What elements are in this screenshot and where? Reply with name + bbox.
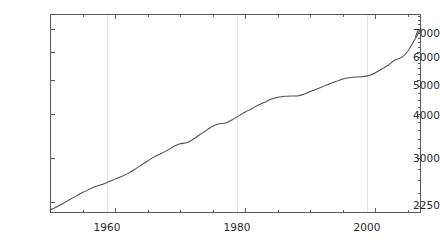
tick-y-right-minor-6400 [418, 42, 421, 43]
tick-y-major-7000 [50, 29, 55, 30]
tick-y-right-minor-4200 [418, 107, 421, 108]
tick-y-right-minor-5600 [418, 63, 421, 64]
xtick-label-1980: 1980 [217, 222, 257, 232]
tick-y-right-minor-7400 [418, 20, 421, 21]
tick-x-minor-1955 [83, 210, 84, 213]
tick-y-right-minor-2800 [418, 169, 421, 170]
ytick-label-4000: 4000 [398, 110, 440, 120]
tick-y-right-minor-5400 [418, 68, 421, 69]
ytick-label-2250: 2250 [398, 200, 440, 210]
tick-x-minor-top-2005 [408, 14, 409, 17]
tick-x-major-2000 [375, 208, 376, 213]
tick-y-right-minor-5200 [418, 74, 421, 75]
tick-y-right-minor-3600 [418, 130, 421, 131]
tick-y-major-3000 [50, 158, 55, 159]
tick-x-minor-1970 [180, 210, 181, 213]
tick-x-major-top-1960 [115, 14, 116, 19]
tick-y-right-minor-4600 [418, 93, 421, 94]
tick-x-minor-top-1955 [83, 14, 84, 17]
tick-x-minor-top-1975 [213, 14, 214, 17]
tick-y-major-6000 [50, 52, 55, 53]
tick-y-right-minor-7200 [418, 24, 421, 25]
tick-x-minor-top-1995 [343, 14, 344, 17]
tick-y-right-minor-6200 [418, 47, 421, 48]
ytick-label-6000: 6000 [398, 52, 440, 62]
tick-y-right-minor-3800 [418, 122, 421, 123]
tick-x-major-top-2000 [375, 14, 376, 19]
tick-y-right-minor-3200 [418, 148, 421, 149]
chart-figure: 7000 6000 5000 4000 3000 2250 1960 1980 … [0, 0, 440, 244]
tick-x-minor-1965 [148, 210, 149, 213]
tick-x-minor-top-1985 [278, 14, 279, 17]
tick-x-major-1960 [115, 208, 116, 213]
tick-x-minor-1975 [213, 210, 214, 213]
tick-x-minor-1985 [278, 210, 279, 213]
tick-x-minor-1995 [343, 210, 344, 213]
tick-y-right-minor-2600 [418, 180, 421, 181]
tick-y-major-4000 [50, 114, 55, 115]
tick-x-minor-top-1970 [180, 14, 181, 17]
tick-y-right-minor-3400 [418, 139, 421, 140]
tick-x-major-1980 [245, 208, 246, 213]
tick-x-minor-top-1990 [310, 14, 311, 17]
ytick-label-5000: 5000 [398, 80, 440, 90]
tick-y-major-2250 [50, 202, 55, 203]
plot-frame [50, 14, 421, 213]
tick-y-major-5000 [50, 80, 55, 81]
tick-y-right-minor-7600 [418, 16, 421, 17]
tick-y-right-minor-2400 [418, 193, 421, 194]
ytick-label-3000: 3000 [398, 153, 440, 163]
ytick-label-7000: 7000 [398, 28, 440, 38]
tick-x-minor-1990 [310, 210, 311, 213]
tick-y-right-minor-4400 [418, 100, 421, 101]
tick-x-minor-2005 [408, 210, 409, 213]
tick-x-minor-top-1965 [148, 14, 149, 17]
xtick-label-1960: 1960 [87, 222, 127, 232]
xtick-label-2000: 2000 [347, 222, 387, 232]
tick-x-major-top-1980 [245, 14, 246, 19]
